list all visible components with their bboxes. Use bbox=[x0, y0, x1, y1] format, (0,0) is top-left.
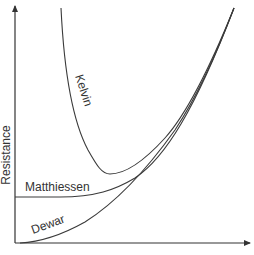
kelvin-label: Kelvin bbox=[72, 73, 95, 108]
matthiessen-label: Matthiessen bbox=[25, 180, 90, 194]
y-axis-label: Resistance bbox=[0, 125, 13, 185]
matthiessen-curve bbox=[15, 8, 234, 197]
resistance-chart: Resistance Kelvin Matthiessen Dewar bbox=[0, 0, 254, 255]
dewar-curve bbox=[20, 8, 234, 243]
